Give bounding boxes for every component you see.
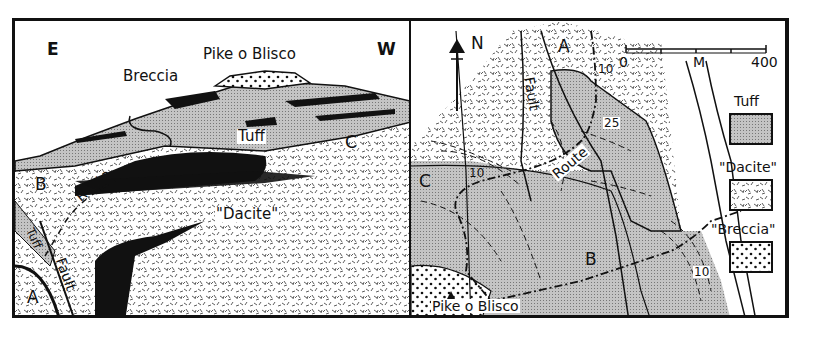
legend-breccia-swatch (729, 241, 773, 273)
peak-label: Pike o Blisco (431, 299, 520, 313)
legend-tuff-swatch (729, 113, 773, 145)
point-a-label: A (558, 38, 570, 55)
dip-value-3: 10 (469, 167, 484, 179)
tuff-label: Tuff (237, 129, 266, 144)
point-c-label: C (419, 173, 431, 190)
direction-east-label: E (47, 41, 59, 58)
peak-label: Pike o Blisco (203, 47, 296, 62)
direction-west-label: W (377, 41, 396, 58)
scale-end-label: 400 (751, 55, 778, 69)
dip-value-1: 10 (598, 63, 613, 75)
dip-value-2: 25 (603, 117, 620, 129)
point-b-label: B (35, 176, 47, 193)
legend-dacite-swatch (729, 179, 773, 211)
cross-section-panel: E W Pike o Blisco Breccia Tuff "Dacite" … (12, 18, 412, 318)
dacite-label: "Dacite" (215, 207, 279, 222)
legend-dacite-label: "Dacite" (719, 159, 777, 175)
dip-value-4: 10 (693, 266, 710, 278)
map-panel: N 0 M 400 A B C Fault Route Pike o Blisc… (409, 18, 789, 318)
north-label: N (471, 35, 484, 52)
point-a-label: A (27, 289, 39, 306)
scale-unit-label: M (693, 55, 705, 69)
scale-start-label: 0 (619, 55, 628, 69)
legend-breccia-label: "Breccia" (711, 221, 775, 237)
point-b-label: B (585, 251, 597, 268)
legend-tuff-label: Tuff (734, 93, 759, 109)
breccia-label: Breccia (123, 69, 178, 84)
point-c-label: C (345, 134, 357, 151)
